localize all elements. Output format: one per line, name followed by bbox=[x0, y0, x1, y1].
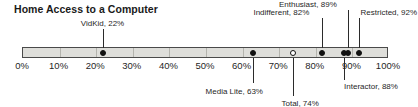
axis-tick-50: 50% bbox=[195, 60, 214, 71]
callout-label-restricted: Restricted, 92% bbox=[361, 9, 417, 17]
callout-label-indifferent: Indifferent, 82% bbox=[253, 9, 309, 17]
data-marker-indifferent[interactable] bbox=[319, 50, 325, 56]
axis-tick-100: 100% bbox=[376, 60, 400, 71]
axis-tick-0: 0% bbox=[15, 60, 29, 71]
leader-line-vidkid bbox=[103, 29, 104, 48]
scale-bar bbox=[22, 47, 388, 58]
axis-tick-70: 70% bbox=[269, 60, 288, 71]
leader-line-indifferent bbox=[322, 18, 323, 48]
axis-tick-60: 60% bbox=[232, 60, 251, 71]
bar-divider bbox=[169, 48, 170, 57]
axis-tick-10: 10% bbox=[49, 60, 68, 71]
axis-tick-80: 80% bbox=[305, 60, 324, 71]
callout-label-vidkid: VidKid, 22% bbox=[81, 20, 124, 28]
leader-line-enthusiast bbox=[348, 10, 349, 48]
bar-divider bbox=[316, 48, 317, 57]
bar-divider bbox=[60, 48, 61, 57]
callout-label-interactor: Interactor, 88% bbox=[344, 83, 398, 91]
data-marker-interactor[interactable] bbox=[341, 50, 347, 56]
leader-line-total bbox=[293, 58, 294, 96]
bar-divider bbox=[133, 48, 134, 57]
axis-tick-40: 40% bbox=[159, 60, 178, 71]
leader-line-media-lite bbox=[253, 58, 254, 83]
axis-tick-20: 20% bbox=[86, 60, 105, 71]
bar-divider bbox=[279, 48, 280, 57]
chart-title: Home Access to a Computer bbox=[14, 3, 158, 15]
data-marker-total[interactable] bbox=[290, 50, 296, 56]
callout-label-media-lite: Media Lite, 63% bbox=[206, 88, 263, 96]
leader-line-interactor bbox=[344, 58, 345, 80]
data-marker-restricted[interactable] bbox=[356, 50, 362, 56]
callout-label-total: Total, 74% bbox=[281, 100, 318, 107]
callout-label-enthusiast: Enthusiast, 89% bbox=[279, 1, 337, 9]
data-marker-media-lite[interactable] bbox=[250, 50, 256, 56]
bar-divider bbox=[243, 48, 244, 57]
bar-divider bbox=[96, 48, 97, 57]
data-marker-vidkid[interactable] bbox=[100, 50, 106, 56]
axis-tick-30: 30% bbox=[122, 60, 141, 71]
home-access-chart: Home Access to a Computer 0%10%20%30%40%… bbox=[0, 0, 418, 107]
leader-line-restricted bbox=[359, 18, 360, 48]
bar-divider bbox=[206, 48, 207, 57]
bar-divider bbox=[352, 48, 353, 57]
